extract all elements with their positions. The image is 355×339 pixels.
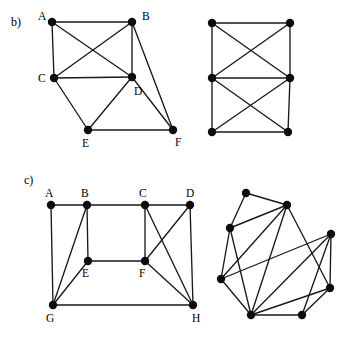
graph-figure-canvas: b)ABCDEFc)ABCDEFGH [0, 0, 355, 339]
graph-node [169, 126, 177, 134]
graph-edge [145, 261, 193, 305]
graph-edge [51, 205, 53, 305]
figure-part-b: b)ABCDEF [11, 10, 294, 149]
node-label-C: C [139, 187, 147, 199]
graph-node [47, 201, 55, 209]
graph-node [283, 201, 291, 209]
node-group: ABCDEF [38, 10, 181, 149]
part-label-b: b) [11, 15, 21, 29]
graph-edge [302, 234, 331, 315]
graph-edge [221, 205, 287, 279]
unlabeled-graph-b [208, 19, 294, 136]
graph-node [286, 19, 294, 27]
graph-node [186, 201, 194, 209]
unlabeled-graph-c [217, 189, 335, 319]
node-label-F: F [139, 267, 145, 279]
graph-node [189, 301, 197, 309]
node-label-E: E [82, 267, 89, 279]
graph-node [326, 284, 334, 292]
graph-edge [190, 205, 193, 305]
graph-node [298, 311, 306, 319]
figure-part-c: c)ABCDEFGH [24, 173, 335, 324]
graph-node [84, 257, 92, 265]
graph-node [141, 201, 149, 209]
graph-edge [288, 78, 290, 132]
graph-node [208, 128, 216, 136]
node-label-B: B [142, 10, 150, 22]
graph-edge [87, 205, 88, 261]
graph-node [327, 230, 335, 238]
graph-edge [52, 22, 54, 78]
graph-node [247, 311, 255, 319]
graph-edge [145, 205, 193, 305]
graph-edge [54, 78, 88, 130]
node-label-D: D [134, 85, 142, 97]
node-label-C: C [38, 72, 46, 84]
graph-node [208, 19, 216, 27]
graph-node [141, 257, 149, 265]
node-label-A: A [38, 10, 47, 22]
node-label-B: B [81, 187, 89, 199]
graph-edge [88, 77, 132, 130]
graph-node [242, 189, 250, 197]
graph-node [226, 224, 234, 232]
labeled-graph-c: ABCDEFGH [45, 187, 200, 324]
node-label-F: F [175, 136, 181, 148]
edge-group [52, 22, 173, 130]
graph-node [84, 126, 92, 134]
graph-node [128, 18, 136, 26]
node-label-G: G [46, 312, 54, 324]
graph-node [208, 74, 216, 82]
graph-node [284, 128, 292, 136]
graph-node [49, 301, 57, 309]
graph-node [286, 74, 294, 82]
edge-group [212, 23, 290, 132]
edge-group [221, 193, 331, 315]
graph-edge [54, 77, 132, 78]
graph-node [217, 275, 225, 283]
graph-edge [53, 205, 87, 305]
node-label-E: E [82, 137, 89, 149]
graph-edge [132, 22, 173, 130]
figure-root: b)ABCDEFc)ABCDEFGH [0, 0, 355, 339]
graph-edge [330, 234, 331, 288]
graph-node [128, 73, 136, 81]
graph-edge [246, 193, 287, 205]
node-label-D: D [186, 187, 194, 199]
graph-edge [287, 205, 330, 288]
graph-edge [251, 288, 330, 315]
part-label-c: c) [24, 173, 33, 187]
edge-group [51, 205, 193, 305]
labeled-graph-b: ABCDEF [38, 10, 181, 149]
node-label-H: H [192, 312, 200, 324]
node-label-A: A [45, 187, 54, 199]
graph-edge [251, 234, 331, 315]
graph-node [48, 18, 56, 26]
graph-node [83, 201, 91, 209]
node-group: ABCDEFGH [45, 187, 200, 324]
graph-node [50, 74, 58, 82]
